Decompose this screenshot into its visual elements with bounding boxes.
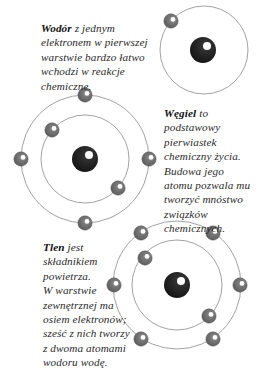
electron [134, 332, 148, 346]
electron [233, 278, 247, 292]
caption-line: elektronem w pierwszej [41, 35, 148, 49]
electron [78, 216, 92, 230]
electron [14, 152, 28, 166]
caption-line: z dwoma atomami [43, 341, 130, 355]
caption-line: związków [164, 207, 250, 221]
oxygen-caption: Tlen jest składnikiem powietrza. W warst… [43, 240, 130, 370]
carbon-term: Węgiel [164, 107, 196, 119]
caption-line: sześć z nich tworzy [43, 326, 130, 340]
electron [164, 14, 178, 28]
electron [111, 181, 125, 195]
caption-line: osiem elektronów; [43, 312, 130, 326]
caption-line: W warstwie [43, 283, 130, 297]
electron [202, 309, 216, 323]
electron [138, 251, 152, 265]
electron [206, 332, 220, 346]
caption-line: atomu pozwala mu [164, 178, 250, 192]
caption-line: zewnętrznej ma [43, 298, 130, 312]
electron [134, 226, 148, 240]
caption-line: chemiczny życia. [164, 149, 250, 163]
caption-line: wchodzi w reakcje [41, 64, 148, 78]
caption-line: składnikiem [43, 254, 130, 268]
caption-line: chemiczne. [41, 79, 148, 93]
caption-line: powietrza. [43, 269, 130, 283]
hydrogen-caption: Wodór z jednym elektronem w pierwszej wa… [41, 21, 148, 93]
caption-line: tworzyć mnóstwo [164, 192, 250, 206]
caption-line: jest [65, 241, 84, 253]
caption-line: chemicznych. [164, 221, 250, 235]
atom-wodór [160, 6, 248, 94]
caption-line: to [196, 107, 208, 119]
caption-line: podstawowy [164, 120, 250, 134]
caption-line: warstwie bardzo łatwo [41, 50, 148, 64]
atom-structure-diagram: Wodór z jednym elektronem w pierwszej wa… [0, 0, 263, 374]
caption-line: pierwiastek [164, 135, 250, 149]
nucleus [190, 37, 216, 63]
caption-line: wodoru wodę. [43, 355, 130, 369]
caption-line: z jednym [72, 22, 115, 34]
nucleus [164, 272, 190, 298]
electron [142, 152, 156, 166]
nucleus [72, 146, 98, 172]
atom-węgiel [14, 88, 156, 230]
carbon-caption: Węgiel to podstawowy pierwiastek chemicz… [164, 106, 250, 236]
caption-line: Budowa jego [164, 164, 250, 178]
oxygen-term: Tlen [43, 241, 65, 253]
hydrogen-term: Wodór [41, 22, 72, 34]
electron [45, 123, 59, 137]
